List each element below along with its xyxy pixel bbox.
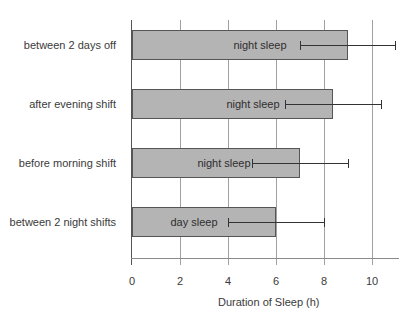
error-bar-cap-high	[395, 41, 396, 50]
error-bar	[285, 104, 381, 105]
category-label: between 2 night shifts	[10, 216, 116, 228]
x-tick-label: 0	[129, 275, 135, 287]
x-tick-label: 6	[273, 275, 279, 287]
error-bar-cap-low	[252, 159, 253, 168]
x-axis-line	[131, 258, 399, 259]
error-bar-cap-high	[348, 159, 349, 168]
category-label: between 2 days off	[24, 39, 116, 51]
error-bar-cap-low	[285, 100, 286, 109]
x-tick-label: 4	[225, 275, 231, 287]
bar-label: night sleep	[197, 157, 250, 169]
error-bar-cap-low	[300, 41, 301, 50]
category-label: after evening shift	[29, 98, 116, 110]
x-tick-label: 10	[366, 275, 378, 287]
error-bar	[252, 163, 348, 164]
bar-label: day sleep	[170, 216, 217, 228]
error-bar-cap-high	[381, 100, 382, 109]
error-bar	[228, 222, 324, 223]
gridline	[372, 20, 373, 265]
error-bar-cap-high	[324, 218, 325, 227]
x-axis-title: Duration of Sleep (h)	[218, 296, 320, 308]
x-tick-label: 8	[321, 275, 327, 287]
bar-label: night sleep	[226, 98, 279, 110]
category-label: before morning shift	[19, 157, 116, 169]
x-tick-label: 2	[177, 275, 183, 287]
error-bar-cap-low	[228, 218, 229, 227]
error-bar	[300, 45, 395, 46]
bar-label: night sleep	[233, 39, 286, 51]
